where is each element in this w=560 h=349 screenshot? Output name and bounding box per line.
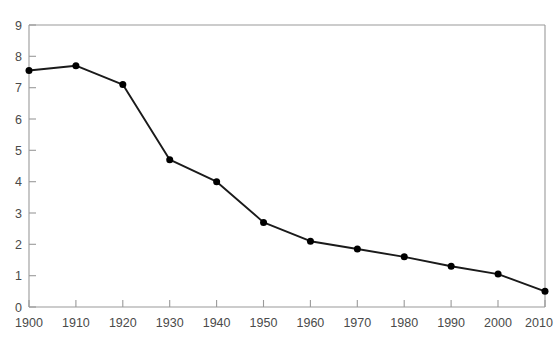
y-tick-label: 6: [15, 113, 22, 127]
y-tick-label: 8: [15, 50, 22, 64]
data-point: [26, 67, 33, 74]
data-point: [448, 263, 455, 270]
chart-canvas: 0 1 2 3 4 5 6 7 8 9 1900 1910: [0, 0, 560, 349]
plot-frame: [29, 25, 545, 307]
y-tick-label: 3: [15, 207, 22, 221]
y-tick-label: 1: [15, 269, 22, 283]
x-tick-label: 1940: [203, 316, 231, 330]
data-point: [119, 81, 126, 88]
x-tick-label: 1930: [156, 316, 184, 330]
y-tick-label: 0: [15, 301, 22, 315]
y-tick-label: 9: [15, 19, 22, 33]
x-tick-label: 1910: [62, 316, 90, 330]
x-axis-ticks: 1900 1910 1920 1930 1940 1950 1960 1970 …: [15, 300, 553, 330]
data-point: [542, 288, 549, 295]
x-tick-label: 1970: [343, 316, 371, 330]
x-tick-label: 1950: [250, 316, 278, 330]
data-markers: [26, 62, 549, 295]
data-point: [307, 238, 314, 245]
x-tick-label: 2000: [484, 316, 512, 330]
x-tick-label: 1990: [437, 316, 465, 330]
y-tick-label: 4: [15, 175, 22, 189]
x-tick-label: 1900: [15, 316, 43, 330]
y-tick-label: 7: [15, 81, 22, 95]
data-point: [260, 219, 267, 226]
line-chart: 0 1 2 3 4 5 6 7 8 9 1900 1910: [0, 0, 560, 349]
data-point: [72, 62, 79, 69]
y-tick-label: 2: [15, 238, 22, 252]
y-tick-label: 5: [15, 144, 22, 158]
x-tick-label: 1960: [296, 316, 324, 330]
data-point: [401, 253, 408, 260]
data-point: [166, 156, 173, 163]
x-tick-label: 1980: [390, 316, 418, 330]
data-point: [213, 178, 220, 185]
data-point: [495, 271, 502, 278]
x-tick-label: 2010: [525, 316, 553, 330]
data-line: [29, 66, 545, 292]
y-axis-ticks: 0 1 2 3 4 5 6 7 8 9: [15, 19, 36, 315]
x-tick-label: 1920: [109, 316, 137, 330]
data-point: [354, 246, 361, 253]
